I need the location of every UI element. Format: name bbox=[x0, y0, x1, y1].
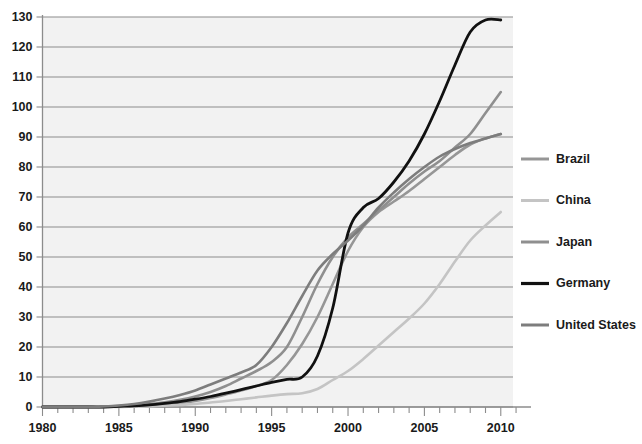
y-axis-tick-label: 70 bbox=[19, 190, 33, 204]
x-axis-tick-label: 2000 bbox=[334, 421, 362, 435]
legend-label-japan: Japan bbox=[556, 235, 592, 249]
y-axis-tick-label: 10 bbox=[19, 370, 33, 384]
y-axis-tick-label: 40 bbox=[19, 280, 33, 294]
y-axis-tick-label: 110 bbox=[12, 70, 32, 84]
y-axis-tick-label: 50 bbox=[19, 250, 33, 264]
y-axis-tick-label: 80 bbox=[19, 160, 33, 174]
y-axis-tick-label: 90 bbox=[19, 130, 33, 144]
legend-label-brazil: Brazil bbox=[556, 152, 590, 166]
line-chart: 0102030405060708090100110120130198019851… bbox=[0, 0, 642, 444]
x-axis-tick-label: 1995 bbox=[258, 421, 286, 435]
y-axis-tick-label: 30 bbox=[19, 310, 33, 324]
y-axis-tick-label: 60 bbox=[19, 220, 33, 234]
x-axis-tick-label: 1980 bbox=[29, 421, 57, 435]
y-axis-tick-label: 100 bbox=[12, 100, 33, 114]
y-axis-tick-label: 0 bbox=[26, 400, 33, 414]
legend-label-united-states: United States bbox=[556, 318, 636, 332]
x-axis-tick-label: 2005 bbox=[410, 421, 438, 435]
y-axis-tick-label: 20 bbox=[19, 340, 33, 354]
chart-canvas: 0102030405060708090100110120130198019851… bbox=[0, 0, 642, 444]
legend-label-china: China bbox=[556, 193, 592, 207]
legend-label-germany: Germany bbox=[556, 276, 610, 290]
x-axis-tick-label: 2010 bbox=[487, 421, 515, 435]
x-axis-tick-label: 1985 bbox=[105, 421, 133, 435]
y-axis-tick-label: 130 bbox=[12, 10, 33, 24]
y-axis-tick-label: 120 bbox=[12, 40, 33, 54]
plot-background bbox=[43, 17, 514, 407]
x-axis-tick-label: 1990 bbox=[181, 421, 209, 435]
